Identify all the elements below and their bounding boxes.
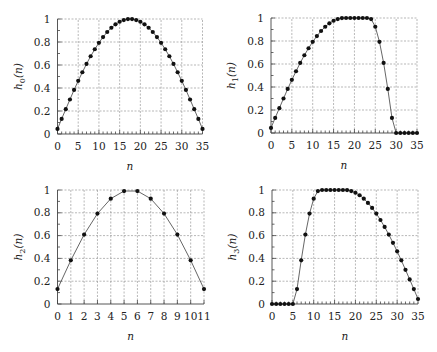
- data-point: [80, 70, 84, 74]
- data-point: [270, 302, 274, 306]
- x-axis-label: n: [127, 330, 134, 342]
- data-point: [373, 25, 377, 29]
- y-axis-label: h2(n): [12, 234, 27, 261]
- subplot-h0: 0510152025303500.20.40.60.81nh0(n): [12, 13, 210, 173]
- data-point: [340, 16, 344, 20]
- data-point: [412, 287, 416, 291]
- data-point: [303, 232, 307, 236]
- data-point: [378, 218, 382, 222]
- x-tick-label: 10: [92, 140, 105, 152]
- data-point: [149, 197, 153, 201]
- data-point: [382, 61, 386, 65]
- data-point: [291, 302, 295, 306]
- y-tick-label: 0.2: [34, 275, 51, 287]
- data-point: [109, 197, 113, 201]
- x-tick-label: 0: [268, 139, 275, 151]
- y-tick-label: 0.4: [247, 81, 264, 93]
- x-tick-label: 0: [54, 140, 61, 152]
- data-point: [189, 258, 193, 262]
- data-point: [278, 302, 282, 306]
- data-point: [122, 189, 126, 193]
- data-point: [286, 87, 290, 91]
- y-tick-label: 0.6: [248, 229, 265, 241]
- data-point: [387, 232, 391, 236]
- data-point: [93, 47, 97, 51]
- data-point: [159, 41, 163, 45]
- y-tick-label: 1: [44, 184, 51, 196]
- y-tick-label: 0.4: [34, 252, 51, 264]
- y-tick-label: 1: [258, 184, 265, 196]
- data-point: [188, 97, 192, 101]
- data-point: [399, 258, 403, 262]
- y-axis-label: h1(n): [225, 62, 240, 89]
- data-point: [176, 70, 180, 74]
- window-curve: [58, 191, 205, 289]
- data-point: [299, 258, 303, 262]
- data-point: [344, 16, 348, 20]
- data-point: [345, 188, 349, 192]
- data-point: [142, 22, 146, 26]
- data-point: [167, 54, 171, 58]
- x-tick-label: 30: [389, 139, 402, 151]
- x-tick-label: 35: [410, 139, 423, 151]
- data-point: [328, 188, 332, 192]
- data-point: [365, 16, 369, 20]
- data-point: [55, 287, 59, 291]
- data-point: [118, 20, 122, 24]
- data-point: [324, 188, 328, 192]
- data-point: [130, 17, 134, 21]
- data-point: [55, 127, 59, 131]
- data-point: [126, 17, 130, 21]
- data-point: [135, 189, 139, 193]
- data-point: [312, 197, 316, 201]
- x-tick-label: 5: [289, 139, 296, 151]
- x-tick-label: 25: [369, 139, 382, 151]
- data-point: [402, 131, 406, 135]
- data-point: [337, 188, 341, 192]
- subplot-h2: 0123456789101100.20.40.60.81nh2(n): [12, 184, 211, 343]
- data-point: [202, 287, 206, 291]
- y-tick-label: 0.8: [248, 206, 265, 218]
- data-point: [68, 97, 72, 101]
- x-tick-label: 35: [411, 310, 424, 322]
- y-axis-label: h3(n): [226, 234, 241, 261]
- y-tick-label: 0.6: [34, 229, 51, 241]
- data-point: [273, 116, 277, 120]
- x-axis-label: n: [341, 159, 348, 171]
- window-curve: [58, 19, 203, 129]
- data-point: [122, 18, 126, 22]
- data-point: [294, 69, 298, 73]
- data-point: [315, 34, 319, 38]
- data-point: [101, 35, 105, 39]
- subplot-h3: 0510152025303500.20.40.60.81nh3(n): [226, 184, 425, 343]
- x-tick-label: 30: [390, 310, 403, 322]
- data-point: [408, 277, 412, 281]
- y-tick-label: 0.4: [248, 252, 265, 264]
- x-tick-label: 20: [349, 310, 362, 322]
- data-point: [287, 302, 291, 306]
- data-point: [295, 287, 299, 291]
- x-tick-label: 10: [184, 310, 197, 322]
- x-tick-label: 2: [81, 310, 88, 322]
- y-tick-label: 0.6: [34, 59, 51, 71]
- data-point: [353, 191, 357, 195]
- data-point: [362, 197, 366, 201]
- data-point: [147, 26, 151, 30]
- data-point: [332, 188, 336, 192]
- x-tick-label: 5: [121, 310, 128, 322]
- data-point: [64, 107, 68, 111]
- data-point: [374, 211, 378, 215]
- x-tick-label: 30: [175, 140, 188, 152]
- subplot-h1: 0510152025303500.20.40.60.81nh1(n): [225, 12, 424, 172]
- y-tick-label: 0: [258, 298, 265, 310]
- data-point: [403, 268, 407, 272]
- data-point: [95, 211, 99, 215]
- data-point: [369, 17, 373, 21]
- data-point: [361, 16, 365, 20]
- y-tick-label: 0.2: [248, 275, 265, 287]
- data-point: [163, 47, 167, 51]
- data-point: [180, 79, 184, 83]
- data-point: [370, 206, 374, 210]
- data-point: [391, 241, 395, 245]
- data-point: [138, 20, 142, 24]
